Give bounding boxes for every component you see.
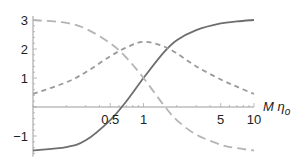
x-tick-label: 10 (247, 112, 261, 127)
y-tick-label: 2 (21, 42, 28, 57)
curve-short-dashed (33, 42, 254, 94)
curve-long-dashed (33, 20, 254, 151)
curve-solid (33, 20, 254, 151)
line-chart: 321−10.51510M ηo (0, 0, 308, 163)
x-tick-label: 1 (140, 112, 147, 127)
axis-labels: 321−10.51510M ηo (13, 13, 291, 144)
x-tick-label: 5 (217, 112, 224, 127)
curves (33, 20, 254, 151)
x-axis-title: M ηo (263, 99, 291, 117)
y-tick-label: 1 (21, 71, 28, 86)
y-tick-label: −1 (13, 129, 28, 144)
axes (33, 16, 254, 157)
x-tick-label: 0.5 (101, 112, 119, 127)
y-tick-label: 3 (21, 13, 28, 28)
